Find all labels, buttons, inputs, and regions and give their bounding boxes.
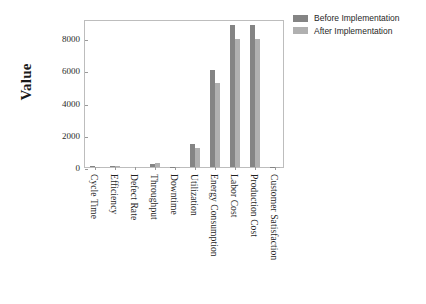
plot-inner — [85, 21, 283, 167]
x-label-slot: Efficiency — [104, 168, 124, 298]
bar-group — [150, 21, 160, 167]
x-tick-label: Efficiency — [109, 174, 119, 214]
x-label-slot: Production Cost — [244, 168, 264, 298]
y-tick-mark — [85, 105, 88, 106]
x-tick-label: Production Cost — [249, 174, 259, 237]
bar-group — [270, 21, 280, 167]
chart-legend: Before ImplementationAfter Implementatio… — [293, 14, 400, 35]
y-tick-label: 2000 — [46, 131, 80, 140]
x-tick-label: Energy Consumption — [209, 174, 219, 257]
y-tick-mark — [85, 72, 88, 73]
y-tick-label: 4000 — [46, 99, 80, 108]
chart-figure: Value 02000400060008000 Cycle TimeEffici… — [0, 0, 426, 304]
bar-group — [230, 21, 240, 167]
y-tick-mark — [85, 137, 88, 138]
bar-after — [235, 39, 240, 167]
y-tick-mark — [85, 40, 88, 41]
x-tick-label: Throughput — [149, 174, 159, 220]
x-label-slot: Downtime — [164, 168, 184, 298]
x-label-slot: Utilization — [184, 168, 204, 298]
bar-group — [170, 21, 180, 167]
legend-item[interactable]: After Implementation — [293, 27, 400, 36]
x-label-slot: Defect Rate — [124, 168, 144, 298]
legend-label: After Implementation — [314, 27, 392, 36]
x-axis-tick-labels: Cycle TimeEfficiencyDefect RateThroughpu… — [84, 168, 284, 304]
bar-group — [90, 21, 100, 167]
x-label-slot: Energy Consumption — [204, 168, 224, 298]
y-tick-label: 0 — [46, 164, 80, 173]
legend-swatch-icon — [293, 15, 308, 22]
bar-after — [215, 83, 220, 167]
bar-group — [250, 21, 260, 167]
x-label-slot: Labor Cost — [224, 168, 244, 298]
x-label-slot: Customer Satisfaction — [264, 168, 284, 298]
legend-swatch-icon — [293, 27, 308, 34]
y-tick-label: 8000 — [46, 35, 80, 44]
plot-area — [84, 20, 284, 168]
x-tick-label: Labor Cost — [229, 174, 239, 217]
legend-label: Before Implementation — [314, 14, 400, 23]
legend-item[interactable]: Before Implementation — [293, 14, 400, 23]
x-tick-label: Downtime — [169, 174, 179, 215]
x-tick-label: Customer Satisfaction — [269, 174, 279, 260]
bar-group — [110, 21, 120, 167]
bar-group — [190, 21, 200, 167]
bar-group — [130, 21, 140, 167]
bar-after — [195, 148, 200, 167]
bar-after — [255, 39, 260, 167]
x-label-slot: Throughput — [144, 168, 164, 298]
y-axis-tick-labels: 02000400060008000 — [42, 0, 80, 304]
x-tick-label: Cycle Time — [89, 174, 99, 219]
x-tick-label: Utilization — [189, 174, 199, 216]
x-tick-label: Defect Rate — [129, 174, 139, 220]
y-tick-label: 6000 — [46, 67, 80, 76]
x-label-slot: Cycle Time — [84, 168, 104, 298]
bar-group — [210, 21, 220, 167]
